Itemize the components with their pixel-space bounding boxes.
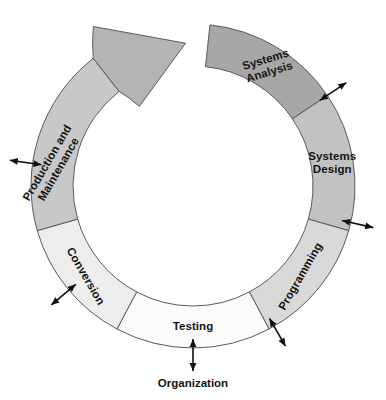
organization-label: Organization (158, 377, 228, 389)
ring-segments-group (31, 25, 355, 348)
systems-lifecycle-wheel: SystemsAnalysisSystemsDesignProgrammingT… (0, 0, 386, 400)
segment-connector-arrow (51, 284, 76, 305)
segment-label: SystemsDesign (308, 150, 356, 175)
segment-label: Testing (173, 320, 214, 332)
diagram-canvas: SystemsAnalysisSystemsDesignProgrammingT… (0, 0, 386, 400)
organization-label-group: Organization (158, 377, 228, 389)
